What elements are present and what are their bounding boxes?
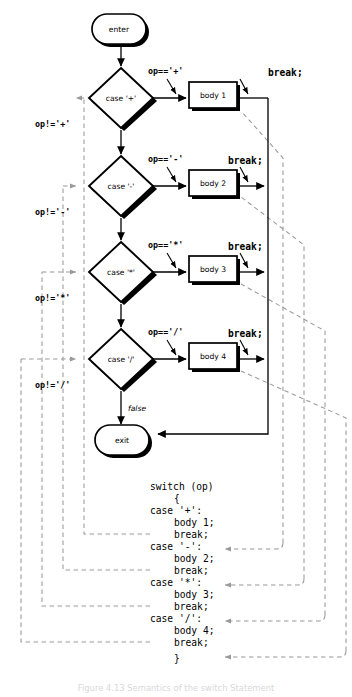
label-case2-true: op=='-' <box>148 154 183 164</box>
code-line-13: break; <box>174 637 209 648</box>
node-body-3[interactable]: body 3 <box>189 256 240 285</box>
label-break-1: break; <box>268 67 303 78</box>
tick-break1 <box>240 79 248 94</box>
dashed-link-body-2 <box>241 197 304 579</box>
label-case4-false: op!='/' <box>35 380 70 390</box>
edge-labels: op=='+' op!='+' break; op=='-' op!='-' b… <box>35 66 303 413</box>
label-case2-false: op!='-' <box>35 207 70 217</box>
dashed-body-link-group <box>225 111 346 657</box>
node-case-4-label: case '/' <box>108 355 135 364</box>
node-body-1-label: body 1 <box>200 91 226 100</box>
node-exit-label: exit <box>115 436 129 445</box>
node-body-3-label: body 3 <box>200 265 226 274</box>
code-line-10: break; <box>174 601 209 612</box>
dashed-arrow-body-1 <box>225 543 283 549</box>
switch-statement-flowchart: enter case '+' case '-' case '*' case '/… <box>0 0 352 697</box>
node-case-1-label: case '+' <box>106 94 136 103</box>
node-body-4-label: body 4 <box>200 352 226 361</box>
label-case3-true: op=='*' <box>148 240 183 250</box>
tick-break3 <box>240 253 248 268</box>
label-break-4: break; <box>228 328 263 339</box>
node-case-3[interactable]: case '*' <box>89 242 157 305</box>
code-line-8: case '*': <box>150 577 202 588</box>
figure-root: enter case '+' case '-' case '*' case '/… <box>0 0 352 697</box>
dashed-arrow-body-3 <box>225 615 325 621</box>
label-false-to-exit: false <box>128 404 146 413</box>
node-case-3-label: case '*' <box>107 268 135 277</box>
code-listing: switch (op) { case '+': body 1; break; c… <box>150 481 214 664</box>
label-break-2: break; <box>228 155 263 166</box>
tick-case4-true <box>167 340 176 355</box>
node-body-1[interactable]: body 1 <box>189 82 240 111</box>
node-case-2-label: case '-' <box>108 182 135 191</box>
code-line-2: case '+': <box>150 505 202 516</box>
code-line-11: case '/': <box>150 613 202 624</box>
node-case-4[interactable]: case '/' <box>89 329 157 392</box>
node-enter[interactable]: enter <box>92 14 149 47</box>
figure-caption: Figure 4.13 Semantics of the switch Stat… <box>78 683 275 693</box>
code-line-4: break; <box>174 529 209 540</box>
tick-case3-true <box>167 253 176 268</box>
node-case-1[interactable]: case '+' <box>89 68 157 131</box>
dashed-link-body-4 <box>241 371 346 651</box>
label-case1-false: op!='+' <box>35 119 70 129</box>
label-case4-true: op=='/' <box>148 327 183 337</box>
dashed-arrow-body-4 <box>225 651 346 657</box>
dashed-link-body-1 <box>241 111 283 543</box>
code-line-5: case '-': <box>150 541 202 552</box>
node-body-2[interactable]: body 2 <box>189 170 240 199</box>
dashed-link-case-slash <box>21 359 150 642</box>
code-line-0: switch (op) <box>150 481 214 492</box>
code-line-12: body 4; <box>174 625 214 636</box>
label-case1-true: op=='+' <box>148 66 183 76</box>
label-case3-false: op!='*' <box>35 293 70 303</box>
label-break-3: break; <box>228 241 263 252</box>
dashed-arrow-body-2 <box>225 579 304 585</box>
node-case-2[interactable]: case '-' <box>89 156 157 219</box>
code-line-7: break; <box>174 565 209 576</box>
code-line-3: body 1; <box>174 517 214 528</box>
tick-break4 <box>240 340 248 355</box>
node-exit[interactable]: exit <box>95 425 152 458</box>
code-line-14: } <box>174 653 180 664</box>
node-body-4[interactable]: body 4 <box>189 343 240 372</box>
code-line-9: body 3; <box>174 589 214 600</box>
tick-break2 <box>240 167 248 182</box>
code-line-1: { <box>174 493 180 504</box>
node-enter-label: enter <box>109 25 130 34</box>
tick-case2-true <box>167 167 176 182</box>
node-body-2-label: body 2 <box>200 179 226 188</box>
tick-case1-true <box>167 79 176 94</box>
code-line-6: body 2; <box>174 553 214 564</box>
